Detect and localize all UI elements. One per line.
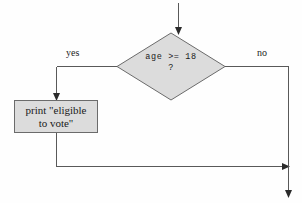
process-statement-line2: to vote" — [39, 117, 74, 129]
yes-arrowhead-icon — [53, 93, 60, 101]
process-node-label: print "eligibleto vote" — [14, 104, 98, 130]
entry-arrowhead-icon — [175, 27, 182, 35]
yes-branch-label: yes — [66, 48, 79, 58]
decision-node-label: age >= 18? — [117, 52, 225, 74]
decision-condition-line1: age >= 18 — [145, 52, 196, 62]
flowchart-canvas: age >= 18? print "eligibleto vote" yes n… — [0, 0, 302, 203]
process-statement-line1: print "eligible — [25, 104, 86, 116]
no-branch-label: no — [257, 48, 267, 58]
decision-condition-line2: ? — [168, 63, 174, 73]
exit-arrowhead-icon — [285, 190, 292, 198]
flowchart-graphics — [0, 0, 302, 203]
